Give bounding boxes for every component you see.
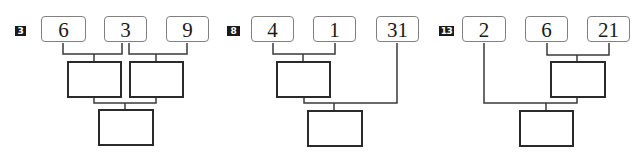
input-number-box: 1 xyxy=(313,16,356,42)
answer-box-right[interactable] xyxy=(129,61,184,98)
answer-box-final[interactable] xyxy=(519,110,574,147)
number-tree-worksheet: 3 6 3 9 8 4 1 31 13 2 6 21 xyxy=(0,0,643,152)
answer-box-intermediate[interactable] xyxy=(276,61,331,98)
answer-box-final[interactable] xyxy=(307,110,363,147)
input-number-box: 6 xyxy=(41,16,86,42)
problem-number-badge: 8 xyxy=(227,26,240,36)
input-number-box: 4 xyxy=(251,16,294,42)
answer-box-final[interactable] xyxy=(98,109,154,146)
input-number-box: 6 xyxy=(525,16,568,42)
input-number-box: 31 xyxy=(376,16,419,42)
input-number-box: 9 xyxy=(166,16,209,42)
input-number-box: 2 xyxy=(462,16,506,42)
answer-box-left[interactable] xyxy=(67,61,122,98)
answer-box-intermediate[interactable] xyxy=(550,61,606,98)
input-number-box: 3 xyxy=(104,16,147,42)
problem-number-badge: 3 xyxy=(15,26,26,36)
input-number-box: 21 xyxy=(587,16,630,42)
problem-number-badge: 13 xyxy=(439,26,454,36)
